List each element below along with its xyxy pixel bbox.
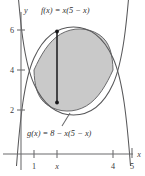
y-tick-label-4: 4 — [10, 66, 14, 75]
x-tick-label-4: 4 — [111, 162, 115, 171]
g-equation-label: g(x) = 8 − x(5 − x) — [27, 129, 92, 138]
g-label-leader — [62, 113, 70, 126]
f-equation-label: f(x) = x(5 − x) — [41, 6, 90, 15]
x-axis-label: x — [136, 150, 141, 159]
segment-endpoint-bottom — [55, 101, 59, 105]
x-tick-label-variable: x — [54, 162, 59, 171]
figure-canvas: 6 4 2 1 x 4 5 y x f(x) = x(5 − x) g(x) =… — [0, 0, 145, 176]
x-tick-label-1: 1 — [32, 162, 36, 171]
shaded-region — [34, 29, 113, 111]
segment-endpoint-top — [55, 30, 59, 34]
x-tick-label-5: 5 — [130, 162, 134, 171]
y-axis-label: y — [23, 6, 28, 15]
y-tick-label-2: 2 — [10, 106, 14, 115]
y-tick-label-6: 6 — [10, 26, 14, 35]
